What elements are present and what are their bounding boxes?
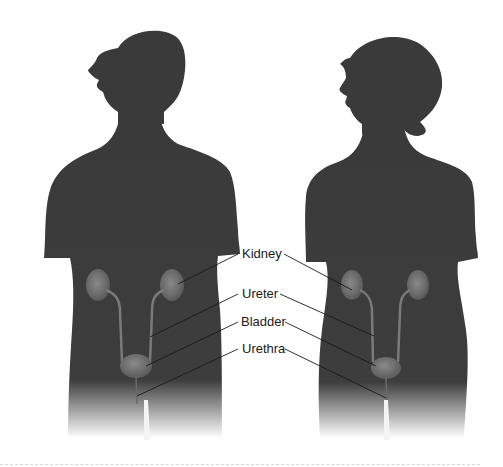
- male-silhouette: [42, 31, 240, 440]
- diagram-canvas: [0, 0, 503, 467]
- male-torso: [44, 116, 240, 438]
- bottom-divider: [0, 464, 480, 465]
- label-urethra: Urethra: [242, 342, 285, 356]
- male-right-kidney: [160, 269, 184, 301]
- female-silhouette: [305, 37, 478, 440]
- male-left-kidney: [86, 269, 110, 301]
- female-urethra: [386, 378, 387, 400]
- female-bladder: [371, 357, 401, 379]
- male-bladder: [120, 354, 152, 378]
- male-head: [88, 31, 185, 124]
- male-urethra: [136, 376, 137, 404]
- female-left-kidney: [341, 270, 363, 300]
- label-kidney: Kidney: [242, 247, 282, 261]
- female-right-kidney: [407, 270, 429, 300]
- urinary-system-diagram: Kidney Ureter Bladder Urethra: [0, 0, 503, 467]
- female-torso: [305, 126, 478, 438]
- label-bladder: Bladder: [241, 315, 286, 329]
- female-head: [339, 37, 442, 136]
- label-ureter: Ureter: [242, 287, 278, 301]
